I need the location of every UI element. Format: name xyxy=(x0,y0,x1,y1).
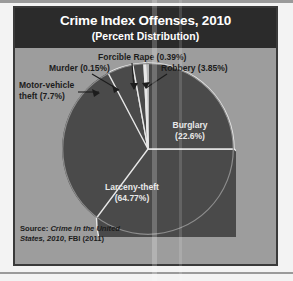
scan-rule-bottom xyxy=(0,272,293,274)
label-burglary-line2: (22.6%) xyxy=(155,131,225,142)
arrowhead-motor-vehicle-theft xyxy=(92,89,100,97)
scan-rule-top xyxy=(0,0,293,3)
chart-title-band: Crime Index Offenses, 2010 (Percent Dist… xyxy=(15,8,276,48)
scanned-page: Crime Index Offenses, 2010 (Percent Dist… xyxy=(0,0,293,281)
arrowhead-forcible-rape xyxy=(130,83,138,90)
label-murder: Murder (0.15%) xyxy=(49,63,110,74)
label-larceny-theft-line1: Larceny-theft xyxy=(87,182,177,193)
label-larceny-theft-line2: (64.77%) xyxy=(87,193,177,204)
label-burglary-line1: Burglary xyxy=(155,120,225,131)
label-motor-vehicle-theft-line2: theft (7.7%) xyxy=(19,91,74,102)
label-forcible-rape: Forcible Rape (0.39%) xyxy=(98,52,186,63)
source-suffix: , FBI (2011) xyxy=(64,234,104,243)
chart-title: Crime Index Offenses, 2010 xyxy=(15,13,276,29)
label-motor-vehicle-theft-line1: Motor-vehicle xyxy=(19,80,74,91)
label-burglary: Burglary (22.6%) xyxy=(155,120,225,142)
label-motor-vehicle-theft: Motor-vehicle theft (7.7%) xyxy=(19,80,74,101)
leader-line-robbery xyxy=(146,74,167,88)
label-robbery: Robbery (3.85%) xyxy=(161,63,228,74)
chart-figure: Crime Index Offenses, 2010 (Percent Dist… xyxy=(13,6,278,266)
source-prefix: Source: xyxy=(20,224,50,233)
pie-plot-area: Forcible Rape (0.39%) Robbery (3.85%) Mu… xyxy=(15,48,276,264)
chart-subtitle: (Percent Distribution) xyxy=(15,29,276,43)
source-note: Source: Crime in the United States, 2010… xyxy=(20,224,125,243)
label-larceny-theft: Larceny-theft (64.77%) xyxy=(87,182,177,204)
